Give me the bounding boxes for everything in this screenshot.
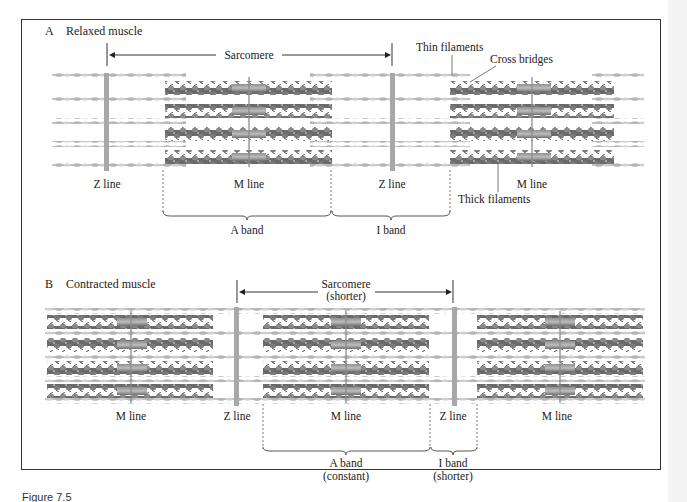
panel-b-letter: B (45, 277, 53, 291)
z-line-bar (390, 73, 395, 171)
thick-filaments-label: Thick filaments (458, 193, 531, 205)
i-band-sublabel: (shorter) (433, 470, 473, 483)
z-line-label: Z line (93, 178, 120, 190)
z-line-label: Z line (439, 410, 466, 422)
thin-filaments-label: Thin filaments (416, 41, 484, 53)
sarcomere-sublabel: (shorter) (326, 290, 366, 303)
panel-a: A Relaxed muscle Sarcomere (45, 24, 644, 236)
arrow-right-icon (446, 289, 452, 295)
m-line-label: M line (116, 410, 146, 422)
m-line-label: M line (517, 178, 547, 190)
panel-a-title: Relaxed muscle (66, 24, 142, 38)
panel-a-letter: A (45, 24, 54, 38)
m-line-label: M line (331, 410, 361, 422)
i-band-label: I band (376, 224, 405, 236)
z-line-bar (234, 307, 239, 406)
panel-b: B Contracted muscle Sarcomere (shorter) (45, 277, 645, 483)
z-line-label: Z line (378, 178, 405, 190)
a-band-brace (163, 211, 331, 220)
i-band-brace (332, 211, 450, 220)
z-line-bar (104, 73, 109, 171)
i-band-label: I band (438, 457, 467, 469)
cross-bridges-label: Cross bridges (490, 53, 553, 66)
i-band-brace (431, 447, 477, 455)
sarcomere-label: Sarcomere (224, 49, 273, 61)
a-band-sublabel: (constant) (323, 470, 369, 483)
arrow-right-icon (385, 52, 391, 58)
m-line-label: M line (234, 178, 264, 190)
arrow-left-icon (239, 289, 245, 295)
arrow-left-icon (109, 52, 115, 58)
a-band-label: A band (330, 457, 363, 469)
figure-caption: Figure 7.5 (22, 492, 72, 502)
m-line-label: M line (542, 410, 572, 422)
z-line-label: Z line (223, 410, 250, 422)
panel-b-title: Contracted muscle (66, 277, 156, 291)
z-line-bar (452, 307, 457, 406)
sarcomere-label: Sarcomere (321, 278, 370, 290)
sarcomere-diagram: A Relaxed muscle Sarcomere (0, 0, 687, 502)
a-band-label: A band (231, 224, 264, 236)
a-band-brace (263, 447, 430, 455)
